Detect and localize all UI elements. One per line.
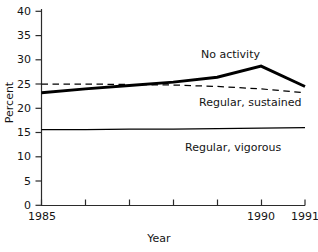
y-tick-label-5: 5 bbox=[11, 176, 31, 187]
series-label-regular-vigorous: Regular, vigorous bbox=[185, 142, 281, 154]
series-label-no-activity: No activity bbox=[201, 49, 260, 61]
series-line-regular-vigorous bbox=[42, 128, 306, 130]
x-tick-marks bbox=[42, 200, 306, 206]
y-axis-title: Percent bbox=[3, 75, 16, 131]
y-tick-label-30: 30 bbox=[11, 54, 31, 65]
x-tick-label-1991: 1991 bbox=[285, 211, 318, 222]
x-tick-label-1985: 1985 bbox=[22, 211, 62, 222]
y-tick-label-35: 35 bbox=[11, 30, 31, 41]
series-label-regular-sustained: Regular, sustained bbox=[199, 97, 301, 109]
line-chart: 40 35 30 25 20 15 10 5 0 1985 1990 1991 … bbox=[0, 0, 318, 252]
y-tick-label-40: 40 bbox=[11, 6, 31, 17]
y-tick-marks bbox=[36, 11, 42, 205]
x-tick-label-1990: 1990 bbox=[241, 211, 281, 222]
x-axis-title: Year bbox=[0, 232, 318, 245]
y-tick-label-10: 10 bbox=[11, 151, 31, 162]
